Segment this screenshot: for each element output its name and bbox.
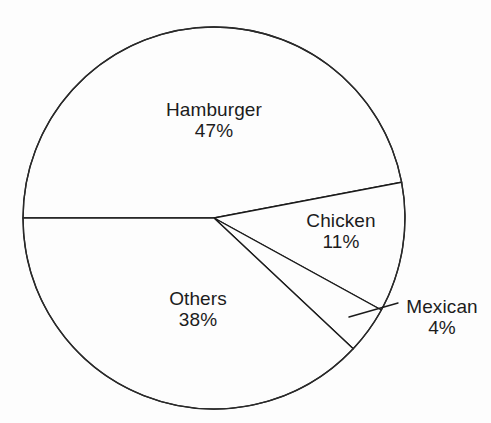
slice-label-mexican-value: 4% bbox=[400, 317, 484, 338]
slice-label-others: Others 38% bbox=[163, 288, 233, 330]
slice-label-others-name: Others bbox=[163, 288, 233, 309]
slice-label-others-value: 38% bbox=[163, 309, 233, 330]
slice-label-mexican-name: Mexican bbox=[400, 296, 484, 317]
slice-label-hamburger-name: Hamburger bbox=[163, 99, 265, 120]
slice-label-chicken-name: Chicken bbox=[304, 210, 378, 231]
slice-label-hamburger: Hamburger 47% bbox=[163, 99, 265, 141]
slice-label-chicken-value: 11% bbox=[304, 231, 378, 252]
slice-label-chicken: Chicken 11% bbox=[304, 210, 378, 252]
slice-label-mexican: Mexican 4% bbox=[400, 296, 484, 338]
pie-chart-svg bbox=[0, 0, 491, 423]
pie-chart-figure: Hamburger 47% Chicken 11% Others 38% Mex… bbox=[0, 0, 491, 423]
slice-label-hamburger-value: 47% bbox=[163, 120, 265, 141]
